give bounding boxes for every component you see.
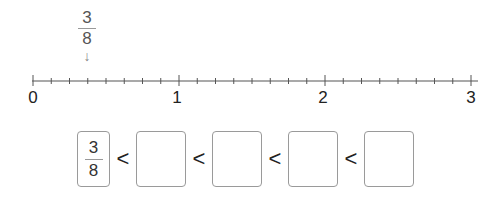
given-fraction-box: 3 8 — [77, 131, 110, 187]
less-than-sign: < — [262, 131, 288, 187]
box-numerator: 3 — [89, 139, 98, 157]
marked-fraction: 3 8 ↓ — [78, 9, 96, 63]
tick-label-0: 0 — [28, 88, 37, 108]
number-line — [0, 0, 501, 100]
answer-box-2[interactable] — [212, 131, 262, 187]
less-than-sign: < — [186, 131, 212, 187]
box-denominator: 8 — [89, 162, 98, 180]
down-arrow-icon: ↓ — [84, 49, 91, 63]
marked-denominator: 8 — [82, 30, 91, 48]
answer-box-4[interactable] — [364, 131, 414, 187]
tick-label-2: 2 — [318, 88, 327, 108]
answer-box-3[interactable] — [288, 131, 338, 187]
comparison-row: 3 8 < < < < — [77, 131, 414, 187]
less-than-sign: < — [110, 131, 136, 187]
answer-box-1[interactable] — [136, 131, 186, 187]
fraction-bar — [85, 159, 103, 160]
tick-label-3: 3 — [466, 88, 475, 108]
marked-numerator: 3 — [82, 9, 91, 27]
tick-label-1: 1 — [172, 88, 181, 108]
less-than-sign: < — [338, 131, 364, 187]
